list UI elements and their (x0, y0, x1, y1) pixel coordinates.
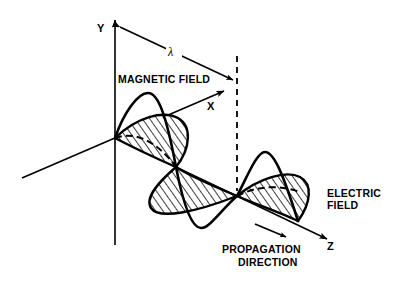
wavelength-dimension: λ (120, 27, 237, 191)
wavelength-symbol: λ (167, 45, 173, 59)
magnetic-field-label: MAGNETIC FIELD (118, 73, 210, 85)
axis-z-label: Z (327, 240, 334, 252)
propagation-label-line1: PROPAGATION (222, 243, 301, 255)
axis-y: Y (97, 20, 115, 245)
electric-lobe-1 (115, 115, 188, 167)
propagation-label-line2: DIRECTION (238, 256, 298, 268)
electric-field-label-line2: FIELD (327, 199, 359, 211)
electric-lobe-2 (149, 167, 237, 214)
propagation-arrow-line (255, 224, 286, 237)
electric-field-label-line1: ELECTRIC (327, 187, 381, 199)
em-wave-diagram: Y X Z λ (0, 0, 394, 283)
diagram-canvas: Y X Z λ (0, 0, 394, 283)
propagation-arrow (255, 224, 286, 237)
axis-x-label: X (207, 100, 215, 112)
axis-y-label: Y (97, 22, 105, 34)
